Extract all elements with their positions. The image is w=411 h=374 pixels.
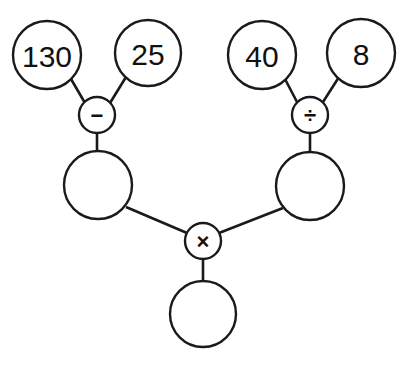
operand-value-n25: 25	[131, 38, 164, 71]
node-n25: 25	[115, 20, 181, 86]
result-circle-resBottom[interactable]	[170, 281, 236, 347]
edge-n40-to-opDivide	[285, 79, 297, 102]
operand-value-n130: 130	[22, 40, 72, 73]
operator-symbol-opMinus: −	[91, 103, 104, 128]
edge-resLeft-to-opTimes	[126, 207, 187, 233]
node-resRight[interactable]	[276, 152, 344, 220]
node-opTimes: ×	[185, 223, 221, 259]
result-circle-resLeft[interactable]	[64, 151, 132, 219]
edge-n130-to-opMinus	[71, 79, 85, 103]
edge-n25-to-opMinus	[110, 77, 126, 103]
expression-tree-canvas: 13025−408÷×	[0, 0, 411, 374]
node-resBottom[interactable]	[170, 281, 236, 347]
edge-n8-to-opDivide	[323, 77, 339, 102]
expression-tree-diagram: 13025−408÷×	[0, 0, 411, 374]
node-n130: 130	[13, 21, 81, 89]
node-resLeft[interactable]	[64, 151, 132, 219]
node-opDivide: ÷	[292, 97, 328, 133]
edge-resRight-to-opTimes	[219, 208, 283, 233]
node-n8: 8	[327, 19, 395, 87]
result-circle-resRight[interactable]	[276, 152, 344, 220]
operator-symbol-opTimes: ×	[197, 229, 210, 254]
node-opMinus: −	[79, 97, 115, 133]
operand-value-n40: 40	[245, 40, 278, 73]
operand-value-n8: 8	[353, 38, 370, 71]
operator-symbol-opDivide: ÷	[304, 103, 316, 128]
nodes-layer: 13025−408÷×	[13, 19, 395, 347]
node-n40: 40	[228, 21, 296, 89]
